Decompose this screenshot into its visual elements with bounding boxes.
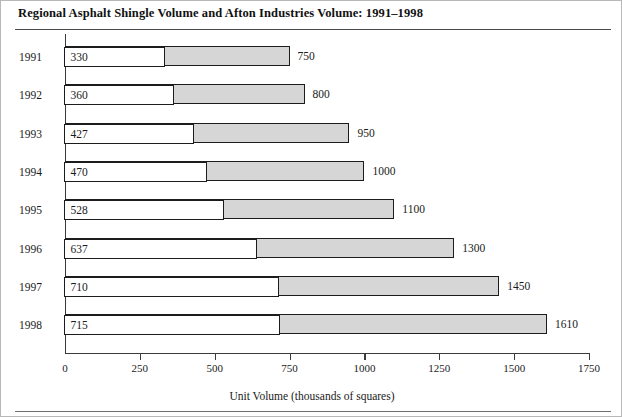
bar-segment-total: 637 xyxy=(65,238,454,258)
year-axis-label: 1992 xyxy=(19,84,57,106)
year-axis-label: 1991 xyxy=(19,46,57,68)
year-axis-label: 1995 xyxy=(19,199,57,221)
bar-segment-afton: 330 xyxy=(64,47,164,67)
bar-total-value-label: 1610 xyxy=(555,314,578,334)
bar-total-value-label: 750 xyxy=(298,46,315,66)
bar-segment-total: 715 xyxy=(65,314,547,334)
x-axis-tick-label: 750 xyxy=(281,362,298,374)
bar-segment-total: 427 xyxy=(65,123,349,143)
x-axis-tick-label: 0 xyxy=(62,362,68,374)
bar-segment-total: 330 xyxy=(65,46,290,66)
x-axis-tick xyxy=(290,353,291,360)
bar-total-value-label: 1300 xyxy=(462,238,485,258)
year-axis-label: 1994 xyxy=(19,161,57,183)
bar-segment-total: 528 xyxy=(65,199,394,219)
bar-segment-afton: 427 xyxy=(64,124,193,144)
bar-inner-value-label: 710 xyxy=(70,278,87,296)
year-axis-label: 1996 xyxy=(19,238,57,260)
bar-total-value-label: 1000 xyxy=(372,161,395,181)
bar-total-value-label: 800 xyxy=(313,84,330,104)
chart-figure: Regional Asphalt Shingle Volume and Afto… xyxy=(0,0,622,417)
bar-inner-value-label: 715 xyxy=(70,316,87,334)
year-axis-label: 1993 xyxy=(19,123,57,145)
bar-segment-afton: 710 xyxy=(64,277,278,297)
bar-total-value-label: 950 xyxy=(357,123,374,143)
x-axis-tick-label: 500 xyxy=(206,362,223,374)
bar-inner-value-label: 427 xyxy=(70,125,87,143)
bar-inner-value-label: 470 xyxy=(70,163,87,181)
bar-inner-value-label: 330 xyxy=(70,48,87,66)
bar-inner-value-label: 360 xyxy=(70,86,87,104)
bar-segment-afton: 528 xyxy=(64,200,224,220)
y-axis-line xyxy=(65,34,66,354)
bar-total-value-label: 1450 xyxy=(507,276,530,296)
bar-segment-total: 360 xyxy=(65,84,305,104)
bar-segment-total: 470 xyxy=(65,161,364,181)
x-axis-tick-label: 1750 xyxy=(578,362,600,374)
x-axis-label: Unit Volume (thousands of squares) xyxy=(1,390,622,402)
x-axis-tick xyxy=(215,353,216,360)
year-axis-label: 1998 xyxy=(19,314,57,336)
x-axis-tick xyxy=(439,353,440,360)
bar-segment-afton: 715 xyxy=(64,315,280,335)
x-axis-tick xyxy=(589,353,590,360)
x-axis-tick xyxy=(140,353,141,360)
bar-total-value-label: 1100 xyxy=(402,199,425,219)
bar-inner-value-label: 528 xyxy=(70,201,87,219)
x-axis-line xyxy=(65,353,589,354)
x-axis-tick-label: 1000 xyxy=(353,362,375,374)
year-axis-label: 1997 xyxy=(19,276,57,298)
bar-segment-total: 710 xyxy=(65,276,499,296)
x-axis-tick xyxy=(514,353,515,360)
x-axis-tick-label: 250 xyxy=(132,362,149,374)
x-axis-tick-label: 1500 xyxy=(503,362,525,374)
bar-segment-afton: 637 xyxy=(64,239,256,259)
plot-area: 1991330750199236080019934279501994470100… xyxy=(1,1,622,417)
bar-segment-afton: 360 xyxy=(64,85,173,105)
bar-segment-afton: 470 xyxy=(64,162,206,182)
x-axis-tick xyxy=(364,353,365,360)
bottom-divider xyxy=(15,411,611,412)
bar-inner-value-label: 637 xyxy=(70,240,87,258)
x-axis-tick-label: 1250 xyxy=(428,362,450,374)
